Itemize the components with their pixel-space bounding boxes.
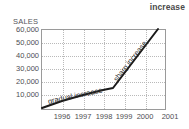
caption-increase: increase: [150, 2, 185, 12]
x-tick-label: 2001: [157, 112, 183, 121]
x-tick-label: 2000: [132, 112, 158, 121]
y-tick-label: 10,000: [1, 91, 39, 99]
y-tick-label: 60,000: [1, 26, 39, 34]
x-axis-tick-labels: 1996 1997 1998 1999 2000 2001: [0, 112, 189, 124]
y-tick-label: 40,000: [1, 52, 39, 60]
y-tick-label: 50,000: [1, 39, 39, 47]
y-tick-label: 30,000: [1, 65, 39, 73]
chart-screenshot: increase SALES 60,000 50,000 40,000 30,0…: [0, 0, 189, 129]
y-axis-tick-labels: 60,000 50,000 40,000 30,000 20,000 10,00…: [0, 0, 39, 129]
y-tick-label: 20,000: [1, 78, 39, 86]
